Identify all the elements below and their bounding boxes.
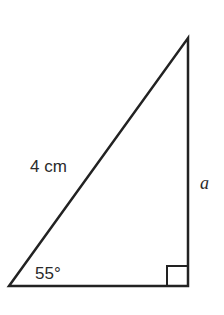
triangle-diagram: 4 cm a 55° xyxy=(0,0,224,315)
hypotenuse-label: 4 cm xyxy=(30,158,67,175)
right-angle-marker xyxy=(167,266,188,286)
angle-label: 55° xyxy=(35,265,61,282)
side-a-label: a xyxy=(200,174,209,192)
